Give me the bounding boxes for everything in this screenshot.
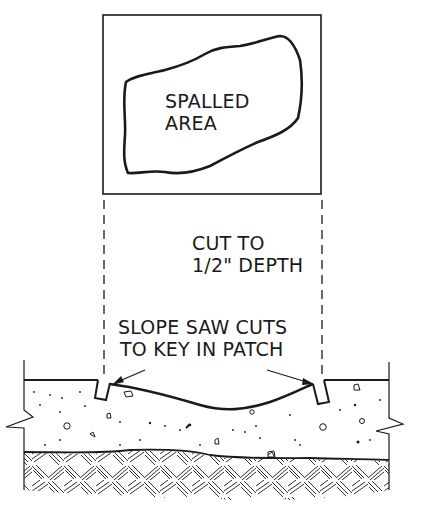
slope-saw-cuts-label: SLOPE SAW CUTS TO KEY IN PATCH	[118, 317, 287, 361]
cut-depth-label: CUT TO 1/2" DEPTH	[192, 233, 303, 277]
right-callout-arrow	[267, 370, 314, 385]
slope-saw-cuts-line2: TO KEY IN PATCH	[118, 339, 287, 361]
slope-saw-cuts-line1: SLOPE SAW CUTS	[118, 317, 287, 339]
left-callout-arrow	[112, 370, 145, 385]
concrete-slab	[6, 380, 402, 455]
spalled-area-label-line2: AREA	[165, 113, 250, 135]
spalled-area-label: SPALLED AREA	[165, 91, 250, 135]
cut-depth-line1: CUT TO	[192, 233, 303, 255]
spalled-area-label-line1: SPALLED	[165, 91, 250, 113]
cut-depth-line2: 1/2" DEPTH	[192, 255, 303, 277]
